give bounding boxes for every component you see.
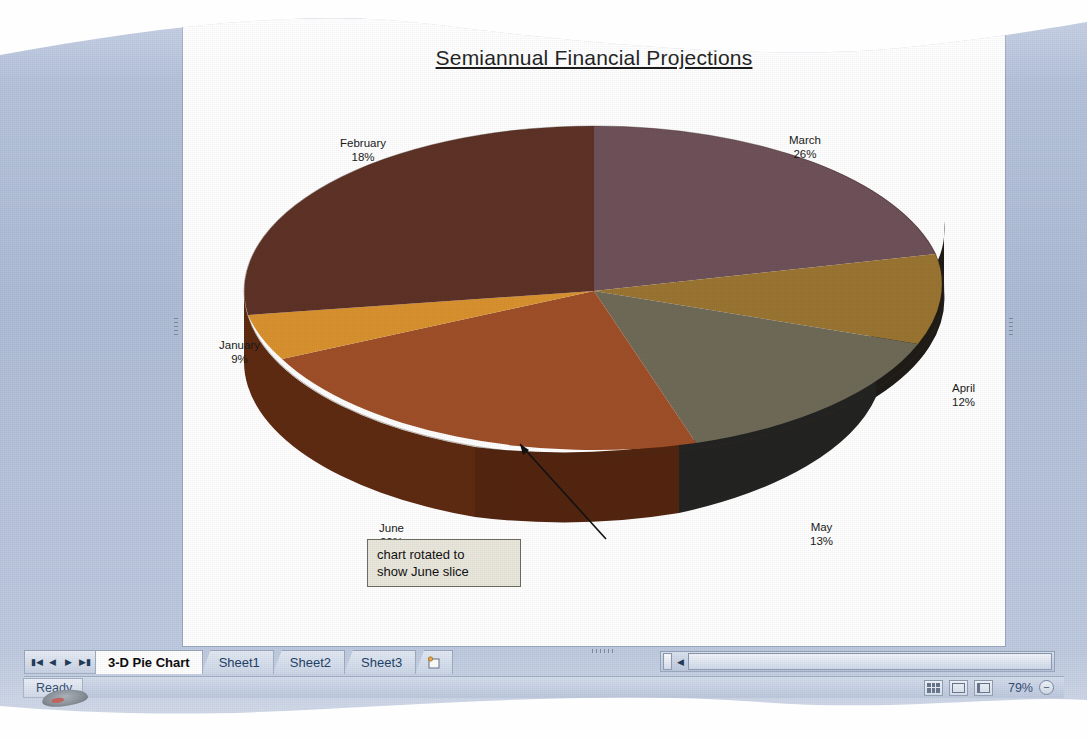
data-label-february: February 18% xyxy=(340,136,386,164)
excel-window: Semiannual Financial Projections xyxy=(0,0,1087,739)
chart-title: Semiannual Financial Projections xyxy=(183,46,1005,70)
sheet-tab-3d-pie-chart[interactable]: 3-D Pie Chart xyxy=(95,650,203,674)
status-bar: Ready 79% − xyxy=(24,676,1064,698)
sheet-nav-buttons[interactable]: ▮◀ ◀ ▶ ▶▮ xyxy=(24,650,96,674)
sheet-tab-label: Sheet2 xyxy=(290,655,331,670)
sheet-tabs[interactable]: 3-D Pie Chart Sheet1 Sheet2 Sheet3 xyxy=(96,650,453,674)
page-layout-view-button[interactable] xyxy=(949,680,968,696)
chart-annotation-callout[interactable]: chart rotated to show June slice xyxy=(367,539,521,587)
status-bar-right[interactable]: 79% − xyxy=(924,680,1064,696)
first-sheet-button[interactable]: ▮◀ xyxy=(29,653,44,671)
last-sheet-button[interactable]: ▶▮ xyxy=(77,653,92,671)
sheet-tab-sheet3[interactable]: Sheet3 xyxy=(344,650,416,674)
normal-view-icon xyxy=(927,683,940,693)
next-sheet-button[interactable]: ▶ xyxy=(61,653,76,671)
data-label-may: May 13% xyxy=(810,520,833,548)
data-label-january: January 9% xyxy=(219,338,260,366)
pie-top-surface xyxy=(244,126,942,450)
zoom-out-button[interactable]: − xyxy=(1039,680,1054,695)
scan-clip: Semiannual Financial Projections xyxy=(0,0,1087,739)
horizontal-scrollbar[interactable]: ◀ xyxy=(660,651,1055,672)
scroll-left-arrow[interactable]: ◀ xyxy=(672,653,688,670)
scanned-book-page: Semiannual Financial Projections xyxy=(0,0,1087,739)
callout-leader-line xyxy=(513,442,609,542)
slice-february xyxy=(244,126,594,315)
data-label-april: April 12% xyxy=(952,381,975,409)
insert-worksheet-button[interactable] xyxy=(415,650,453,674)
horizontal-scroll-thumb[interactable] xyxy=(688,653,1052,670)
callout-line-2: show June slice xyxy=(377,563,511,580)
sheet-tab-sheet2[interactable]: Sheet2 xyxy=(273,650,345,674)
sheet-tab-label: Sheet1 xyxy=(219,655,260,670)
chart-sheet-canvas[interactable]: Semiannual Financial Projections xyxy=(183,18,1005,646)
sheet-tab-label: 3-D Pie Chart xyxy=(108,655,190,670)
zoom-level[interactable]: 79% xyxy=(999,681,1033,695)
page-layout-view-icon xyxy=(952,683,965,693)
insert-worksheet-icon xyxy=(426,656,442,670)
sheet-tab-sheet1[interactable]: Sheet1 xyxy=(202,650,274,674)
tab-split-handle[interactable] xyxy=(663,653,672,670)
sheet-tab-label: Sheet3 xyxy=(361,655,402,670)
chart-left-handle[interactable] xyxy=(174,318,179,344)
callout-line-1: chart rotated to xyxy=(377,546,511,563)
chart-right-handle[interactable] xyxy=(1009,318,1014,344)
data-label-march: March 26% xyxy=(789,133,821,161)
page-break-preview-button[interactable] xyxy=(974,680,993,696)
previous-sheet-button[interactable]: ◀ xyxy=(45,653,60,671)
normal-view-button[interactable] xyxy=(924,680,943,696)
page-break-preview-icon xyxy=(977,683,990,693)
